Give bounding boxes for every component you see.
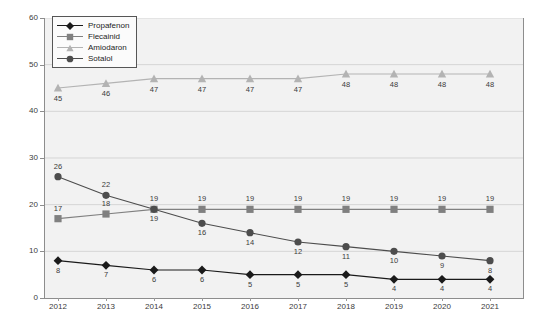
y-tick-mark bbox=[40, 111, 44, 112]
data-label: 47 bbox=[139, 86, 169, 94]
x-tick-mark bbox=[298, 298, 299, 301]
data-label: 8 bbox=[43, 267, 73, 275]
legend-key-flecainid bbox=[57, 31, 83, 42]
data-label: 19 bbox=[235, 195, 265, 203]
data-label: 5 bbox=[283, 281, 313, 289]
data-label: 7 bbox=[91, 271, 121, 279]
legend-item-amiodaron[interactable]: Amiodaron bbox=[57, 42, 129, 53]
x-tick-mark bbox=[250, 298, 251, 301]
plot-right-border bbox=[523, 18, 524, 299]
data-point-marker bbox=[342, 270, 351, 279]
data-label: 18 bbox=[91, 200, 121, 208]
data-label: 16 bbox=[187, 229, 217, 237]
data-label: 47 bbox=[187, 86, 217, 94]
legend-key-sotalol bbox=[57, 53, 83, 64]
legend-label-amiodaron: Amiodaron bbox=[88, 44, 127, 52]
data-label: 19 bbox=[427, 195, 457, 203]
data-label: 48 bbox=[475, 81, 505, 89]
x-tick-mark bbox=[154, 298, 155, 301]
data-label: 5 bbox=[235, 281, 265, 289]
data-point-marker bbox=[438, 206, 445, 213]
data-label: 45 bbox=[43, 95, 73, 103]
data-label: 19 bbox=[139, 195, 169, 203]
x-tick-label: 2012 bbox=[38, 303, 78, 311]
legend-label-sotalol: Sotalol bbox=[88, 55, 112, 63]
data-label: 9 bbox=[427, 262, 457, 270]
data-point-marker bbox=[54, 215, 61, 222]
y-tick-label: 40 bbox=[16, 107, 38, 115]
circle-marker-icon bbox=[66, 55, 74, 63]
legend-item-sotalol[interactable]: Sotalol bbox=[57, 53, 129, 64]
y-tick-label: 30 bbox=[16, 154, 38, 162]
data-label: 14 bbox=[235, 239, 265, 247]
data-point-marker bbox=[486, 206, 493, 213]
x-tick-label: 2016 bbox=[230, 303, 270, 311]
data-label: 47 bbox=[283, 86, 313, 94]
y-tick-mark bbox=[40, 158, 44, 159]
x-tick-label: 2019 bbox=[374, 303, 414, 311]
data-label: 48 bbox=[427, 81, 457, 89]
x-tick-label: 2020 bbox=[422, 303, 462, 311]
y-axis-line bbox=[44, 18, 45, 299]
data-label: 19 bbox=[187, 195, 217, 203]
data-point-marker bbox=[390, 275, 399, 284]
legend-key-propafenon bbox=[57, 20, 83, 31]
diamond-marker-icon bbox=[66, 22, 74, 30]
data-label: 26 bbox=[43, 163, 73, 171]
data-label: 17 bbox=[43, 205, 73, 213]
data-label: 46 bbox=[91, 90, 121, 98]
data-point-marker bbox=[390, 248, 397, 255]
x-tick-label: 2014 bbox=[134, 303, 174, 311]
y-tick-mark bbox=[40, 65, 44, 66]
data-point-marker bbox=[246, 206, 253, 213]
data-point-marker bbox=[102, 261, 111, 270]
data-point-marker bbox=[486, 275, 495, 284]
data-label: 12 bbox=[283, 248, 313, 256]
data-point-marker bbox=[342, 206, 349, 213]
data-label: 22 bbox=[91, 181, 121, 189]
x-tick-label: 2018 bbox=[326, 303, 366, 311]
y-tick-label: 50 bbox=[16, 61, 38, 69]
data-point-marker bbox=[486, 257, 493, 264]
y-tick-mark bbox=[40, 298, 44, 299]
y-tick-mark bbox=[40, 18, 44, 19]
series-line-amiodaron bbox=[58, 74, 490, 88]
data-point-marker bbox=[294, 238, 301, 245]
x-tick-mark bbox=[394, 298, 395, 301]
data-label: 6 bbox=[187, 276, 217, 284]
data-label: 48 bbox=[379, 81, 409, 89]
data-label: 19 bbox=[331, 195, 361, 203]
line-chart: (Mio. DDD) 60504030201002012201320142015… bbox=[0, 0, 543, 325]
data-point-marker bbox=[198, 266, 207, 275]
x-axis-line bbox=[44, 298, 524, 299]
chart-legend[interactable]: Propafenon Flecainid Amiodaron Sotalol bbox=[52, 16, 137, 68]
data-label: 5 bbox=[331, 281, 361, 289]
series-line-flecainid bbox=[58, 209, 490, 218]
x-tick-label: 2015 bbox=[182, 303, 222, 311]
data-point-marker bbox=[54, 256, 63, 265]
data-point-marker bbox=[246, 229, 253, 236]
data-point-marker bbox=[438, 275, 447, 284]
data-point-marker bbox=[438, 252, 445, 259]
legend-key-amiodaron bbox=[57, 42, 83, 53]
data-label: 10 bbox=[379, 257, 409, 265]
y-tick-label: 60 bbox=[16, 14, 38, 22]
y-tick-mark bbox=[40, 251, 44, 252]
x-tick-mark bbox=[346, 298, 347, 301]
data-point-marker bbox=[294, 206, 301, 213]
data-label: 19 bbox=[283, 195, 313, 203]
legend-item-propafenon[interactable]: Propafenon bbox=[57, 20, 129, 31]
x-tick-mark bbox=[202, 298, 203, 301]
series-line-sotalol bbox=[58, 177, 490, 261]
legend-item-flecainid[interactable]: Flecainid bbox=[57, 31, 129, 42]
series-line-propafenon bbox=[58, 261, 490, 280]
x-tick-label: 2017 bbox=[278, 303, 318, 311]
y-tick-label: 10 bbox=[16, 247, 38, 255]
data-label: 4 bbox=[475, 285, 505, 293]
data-point-marker bbox=[294, 270, 303, 279]
data-label: 48 bbox=[331, 81, 361, 89]
data-point-marker bbox=[54, 173, 61, 180]
data-point-marker bbox=[102, 192, 109, 199]
data-label: 47 bbox=[235, 86, 265, 94]
data-label: 19 bbox=[139, 215, 169, 223]
